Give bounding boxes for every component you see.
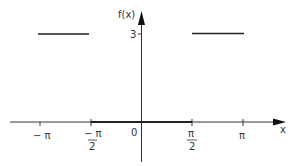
x-tick-label-pi: π: [239, 130, 245, 141]
x-tick-label-neg-pi-half-den: 2: [89, 141, 95, 152]
x-tick-label-pi-half-num: π: [188, 128, 194, 139]
x-tick-label-neg-pi-half-num: − π: [84, 128, 102, 139]
origin-label: 0: [131, 127, 137, 138]
x-tick-label-neg-pi: − π: [33, 130, 51, 141]
y-tick-label-3: 3: [130, 29, 136, 40]
step-function-plot: f(x) 3 x 0 − π − π 2 π 2 π: [0, 0, 292, 166]
y-axis-label: f(x): [118, 9, 135, 20]
x-tick-label-pi-half-den: 2: [189, 141, 195, 152]
x-axis-label: x: [280, 124, 286, 135]
y-axis-arrow-icon: [138, 11, 145, 25]
